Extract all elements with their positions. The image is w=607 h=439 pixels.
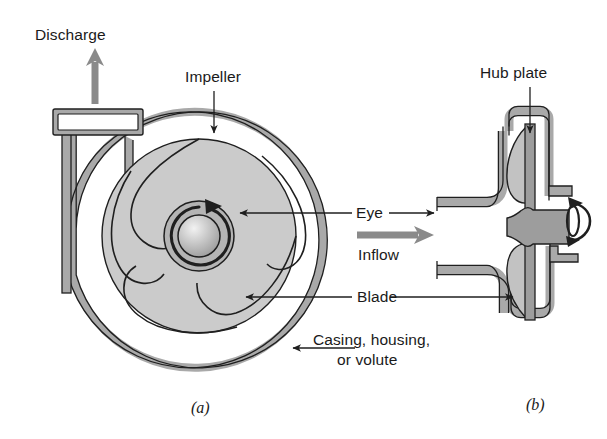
shaft-and-hub [507, 208, 569, 247]
label-inflow: Inflow [358, 246, 399, 264]
discharge-flange [53, 109, 143, 135]
discharge-arrow [86, 48, 104, 104]
pump-figure: Discharge Impeller Eye Inflow Blade Casi… [0, 0, 607, 439]
label-blade: Blade [357, 288, 397, 306]
suction-nozzle-upper [437, 126, 503, 206]
inflow-arrow [357, 226, 434, 244]
panel-b-side-section [357, 87, 590, 320]
label-hub-plate: Hub plate [480, 64, 547, 82]
label-impeller: Impeller [185, 68, 241, 86]
label-casing-line2: or volute [337, 351, 397, 369]
label-casing-line1: Casing, housing, [313, 331, 430, 349]
discharge-duct [62, 133, 71, 293]
label-discharge: Discharge [35, 26, 106, 44]
impeller-hub [164, 201, 234, 271]
suction-nozzle-lower [437, 265, 509, 313]
panel-a-front-view [53, 48, 355, 368]
label-eye: Eye [356, 204, 383, 222]
caption-panel-b: (b) [526, 396, 545, 414]
caption-panel-a: (a) [191, 399, 210, 417]
